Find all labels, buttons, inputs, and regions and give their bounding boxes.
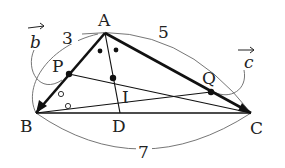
label-p: P	[52, 56, 63, 76]
label-a: A	[97, 10, 111, 30]
label-b: B	[20, 116, 33, 136]
diagram-canvas: A B C D I P Q 3 5 7 b c	[0, 0, 285, 168]
label-d: D	[112, 116, 126, 136]
angle-mark-a2	[114, 48, 119, 53]
segment-ad	[105, 33, 120, 113]
triangle-diagram: A B C D I P Q 3 5 7 b c	[0, 0, 285, 168]
vector-c-arc	[214, 70, 245, 95]
angle-mark-b1	[58, 91, 63, 96]
angle-mark-a1	[98, 49, 103, 54]
label-c: C	[250, 118, 263, 138]
label-q: Q	[202, 68, 216, 88]
point-i	[110, 75, 116, 81]
length-ac: 5	[158, 22, 169, 42]
vector-c-label: c	[244, 52, 254, 72]
vector-b-label: b	[30, 32, 41, 52]
point-p	[66, 71, 72, 77]
length-ab: 3	[62, 28, 73, 48]
angle-mark-b2	[65, 103, 70, 108]
label-i: I	[122, 87, 129, 107]
vector-b-arrow-icon	[28, 23, 44, 29]
segment-cp	[69, 74, 251, 113]
point-q	[208, 89, 214, 95]
length-bc: 7	[138, 142, 149, 162]
